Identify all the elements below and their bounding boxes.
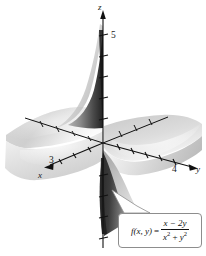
formula-equals: =: [154, 226, 159, 236]
formula-denominator: x2 + y2: [161, 231, 189, 242]
y-axis-label: y: [195, 164, 200, 174]
formula-lhs: f(x, y): [131, 226, 152, 236]
x-tick-label: 3: [49, 155, 54, 165]
den-plus: +: [170, 232, 180, 242]
z-tick-label: 5: [111, 30, 116, 40]
formula-numerator: x − 2y: [161, 219, 188, 228]
x-axis-label: x: [37, 170, 42, 180]
formula-callout-box: f(x, y) = x − 2y x2 + y2: [118, 213, 202, 248]
formula-expression: f(x, y) = x − 2y x2 + y2: [119, 214, 201, 247]
y-tick-label: 4: [172, 164, 177, 174]
z-axis-label: z: [97, 2, 102, 12]
formula-fraction: x − 2y x2 + y2: [161, 219, 189, 243]
den-exp-2: 2: [184, 230, 187, 237]
surface-plot-figure: z 5 y 4 x 3 f(x, y) = x − 2y x2 + y2: [0, 0, 206, 256]
